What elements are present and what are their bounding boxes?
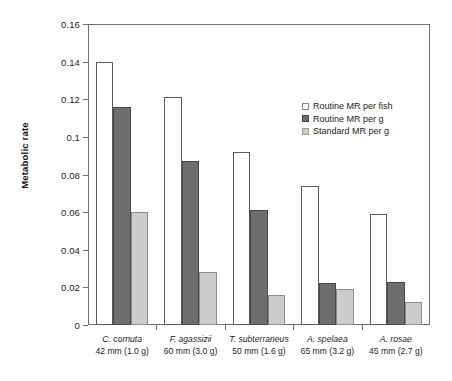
x-label-species: C. cornuta: [88, 334, 156, 346]
y-tick-label: 0.06: [61, 207, 80, 218]
y-tick-label: 0.02: [61, 282, 80, 293]
y-tick-label: 0: [75, 320, 80, 331]
bar: [250, 210, 268, 325]
x-label-species: F. agassizii: [156, 334, 224, 346]
y-tick-label: 0.12: [61, 94, 80, 105]
x-axis-group-label: T. subterraneus50 mm (1.6 g): [225, 334, 293, 357]
legend-label: Standard MR per g: [313, 125, 389, 138]
legend-swatch-icon: [302, 103, 309, 110]
x-axis-group-label: A. spelaea65 mm (3.2 g): [293, 334, 361, 357]
y-tick-label: 0.08: [61, 169, 80, 180]
bar-series-container: [88, 24, 430, 325]
x-label-size: 65 mm (3.2 g): [293, 346, 361, 358]
bar: [336, 289, 354, 325]
chart-legend: Routine MR per fishRoutine MR per gStand…: [302, 100, 393, 138]
x-tick-mark: [362, 325, 363, 330]
bar: [268, 295, 286, 325]
legend-item: Standard MR per g: [302, 125, 393, 138]
bar-group: [225, 24, 293, 325]
x-tick-mark: [156, 325, 157, 330]
x-label-size: 42 mm (1.0 g): [88, 346, 156, 358]
legend-swatch-icon: [302, 115, 309, 122]
bar-group: [293, 24, 361, 325]
bar: [319, 283, 337, 325]
y-tick-label: 0.1: [66, 131, 80, 142]
y-tick-label: 0.16: [61, 19, 80, 30]
bar: [301, 186, 319, 325]
bar: [387, 282, 405, 325]
legend-swatch-icon: [302, 128, 309, 135]
x-tick-mark: [293, 325, 294, 330]
y-tick-label: 0.04: [61, 244, 80, 255]
bar-group: [88, 24, 156, 325]
y-tick-mark: [83, 325, 88, 326]
x-axis-group-label: A. rosae45 mm (2.7 g): [362, 334, 430, 357]
y-tick-label: 0.14: [61, 56, 80, 67]
x-label-species: A. spelaea: [293, 334, 361, 346]
x-label-size: 45 mm (2.7 g): [362, 346, 430, 358]
bar: [370, 214, 388, 325]
y-axis: 00.020.040.060.080.10.120.140.16: [0, 0, 88, 349]
bar: [405, 302, 423, 325]
x-tick-mark: [225, 325, 226, 330]
bar: [199, 272, 217, 325]
x-axis-group-label: F. agassizii60 mm (3.0 g): [156, 334, 224, 357]
x-label-species: T. subterraneus: [225, 334, 293, 346]
bar-group: [362, 24, 430, 325]
bar: [113, 107, 131, 325]
x-label-size: 60 mm (3.0 g): [156, 346, 224, 358]
x-label-species: A. rosae: [362, 334, 430, 346]
x-axis-labels: C. cornuta42 mm (1.0 g)F. agassizii60 mm…: [88, 334, 430, 380]
bar: [96, 62, 114, 325]
bar: [182, 161, 200, 325]
bar: [233, 152, 251, 325]
chart-figure: Metabolic rate 00.020.040.060.080.10.120…: [0, 0, 452, 381]
bar: [164, 97, 182, 325]
legend-label: Routine MR per fish: [313, 100, 393, 113]
bar: [131, 212, 149, 325]
x-label-size: 50 mm (1.6 g): [225, 346, 293, 358]
x-axis-group-label: C. cornuta42 mm (1.0 g): [88, 334, 156, 357]
legend-label: Routine MR per g: [313, 113, 384, 126]
bar-group: [156, 24, 224, 325]
legend-item: Routine MR per g: [302, 113, 393, 126]
legend-item: Routine MR per fish: [302, 100, 393, 113]
